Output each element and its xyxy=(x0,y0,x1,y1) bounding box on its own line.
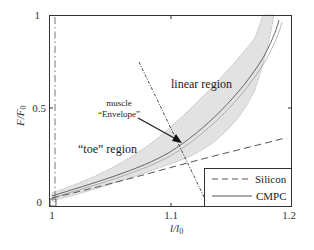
envelope-label: “Envelope” xyxy=(98,109,140,119)
chart: 1 0.5 0 1 1.1 1.2 l/l0 F/F0 linear regio… xyxy=(0,0,314,250)
legend: Silicon CMPC xyxy=(205,169,292,207)
y-tick-1: 1 xyxy=(35,9,41,21)
x-axis-label: l/l0 xyxy=(170,222,183,236)
toe-region-label: “toe” region xyxy=(78,142,137,156)
legend-silicon-label: Silicon xyxy=(255,173,287,185)
y-tick-0: 0 xyxy=(37,196,43,208)
x-tick-1-2: 1.2 xyxy=(282,209,296,221)
y-axis-label: F/F0 xyxy=(14,106,28,128)
x-tick-1-1: 1.1 xyxy=(164,209,178,221)
linear-region-label: linear region xyxy=(171,77,232,91)
y-tick-0-5: 0.5 xyxy=(32,102,46,114)
muscle-label: muscle xyxy=(106,98,132,108)
x-tick-1: 1 xyxy=(49,209,55,221)
legend-cmpc-label: CMPC xyxy=(256,190,287,202)
